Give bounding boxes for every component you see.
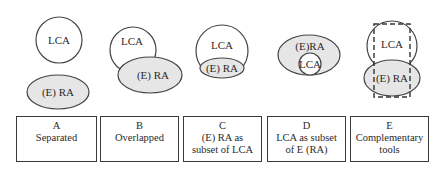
ra-label: (E) RA <box>206 62 238 75</box>
caption-box-b: B Overlapped <box>100 116 179 162</box>
lca-label: LCA <box>48 34 70 46</box>
caption-line: (E) RA as <box>184 132 261 144</box>
caption-box-c: C (E) RA as subset of LCA <box>183 116 262 162</box>
panel-e-diagram: LCA (E) RA <box>364 21 420 97</box>
lca-label: LCA <box>121 35 143 47</box>
ra-label: (E) RA <box>376 72 408 85</box>
caption-line: Complementary <box>351 132 428 144</box>
caption-box-d: D LCA as subset of E (RA) <box>267 116 346 162</box>
ra-label: (E) RA <box>42 86 74 99</box>
caption-box-e: E Complementary tools <box>350 116 429 162</box>
caption-letter: D <box>268 120 345 132</box>
caption-letter: C <box>184 120 261 132</box>
caption-line: subset of LCA <box>184 144 261 156</box>
lca-label: LCA <box>299 58 321 70</box>
caption-letter: A <box>17 120 96 132</box>
panel-a-diagram: LCA (E) RA <box>27 17 89 109</box>
ra-label: (E) RA <box>137 69 169 82</box>
caption-line: Overlapped <box>101 132 178 144</box>
lca-label: LCA <box>211 39 233 51</box>
caption-line: tools <box>351 144 428 156</box>
ra-label: (E)RA <box>295 40 324 53</box>
caption-line: Separated <box>17 132 96 144</box>
caption-box-a: A Separated <box>16 116 97 162</box>
caption-letter: E <box>351 120 428 132</box>
panel-d-diagram: (E)RA LCA <box>278 35 340 75</box>
caption-letter: B <box>101 120 178 132</box>
panel-b-diagram: LCA (E) RA <box>110 27 182 93</box>
lca-label: LCA <box>381 38 403 50</box>
caption-line: of E (RA) <box>268 144 345 156</box>
panel-c-diagram: LCA (E) RA <box>196 25 248 78</box>
caption-line: LCA as subset <box>268 132 345 144</box>
